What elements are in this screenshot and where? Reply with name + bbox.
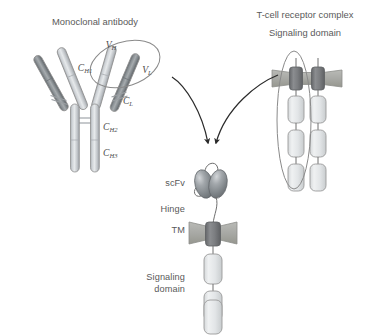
tcr-tm-block-right <box>312 67 325 90</box>
tcr-signaling-box <box>310 96 326 123</box>
monoclonal-antibody-title: Monoclonal antibody <box>52 16 138 27</box>
tcr-signaling-chain-left <box>288 90 304 191</box>
car-label-scfv: scFv <box>165 178 185 188</box>
tcr-tm-block-left <box>290 67 303 90</box>
car-label-tm: TM <box>172 225 185 235</box>
tcr-membrane-bar <box>272 70 342 87</box>
car-label-signaling-line2: domain <box>154 284 185 294</box>
tcr-signaling-box <box>310 164 326 191</box>
car-construct-diagram: Monoclonal antibody VH VL CH1 CL CH2 CH3… <box>0 0 375 336</box>
tcr-signaling-domain-title: Signaling domain <box>269 27 341 38</box>
tcr-signaling-chain-right <box>310 90 326 191</box>
car-signaling-box <box>204 300 222 334</box>
car-label-signaling-line1: Signaling <box>146 272 185 282</box>
tcr-signaling-box <box>288 130 304 157</box>
tcr-signaling-box <box>310 130 326 157</box>
car-label-hinge: Hinge <box>160 204 185 214</box>
car-tm-block <box>206 222 221 246</box>
tcr-complex-title: T-cell receptor complex <box>257 9 354 20</box>
figure-canvas: Monoclonal antibody VH VL CH1 CL CH2 CH3… <box>0 0 375 336</box>
car-signaling-box <box>204 254 222 284</box>
tcr-signaling-box <box>288 96 304 123</box>
